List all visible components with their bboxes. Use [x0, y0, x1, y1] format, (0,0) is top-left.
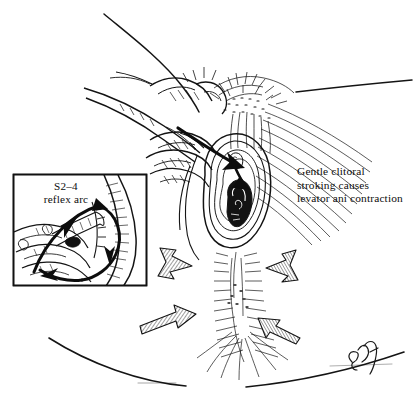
inset-label-line-1: S2–4: [18, 180, 114, 193]
caption-line-3: levator ani contraction: [297, 192, 419, 206]
inset-label-block: S2–4 reflex arc: [18, 180, 114, 207]
caption-block: Gentle clitoral stroking causes levator …: [297, 165, 419, 206]
caption-line-2: stroking causes: [297, 179, 419, 193]
caption-line-1: Gentle clitoral: [297, 165, 419, 179]
inset-label-line-2: reflex arc: [18, 193, 114, 206]
